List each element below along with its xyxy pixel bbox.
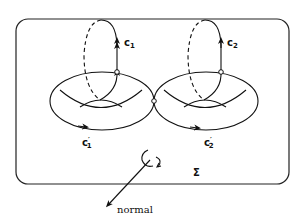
cycle-c1 bbox=[84, 20, 117, 100]
cycle-c2-prime-arrow bbox=[190, 127, 198, 128]
label-normal: normal bbox=[117, 204, 153, 215]
cycle-c2 bbox=[188, 20, 221, 100]
label-c1-prime: c′1 bbox=[82, 136, 92, 150]
rotation-indicator-icon bbox=[142, 150, 161, 167]
basepoint-left bbox=[115, 70, 120, 75]
label-sigma: Σ bbox=[193, 167, 200, 178]
genus-two-surface-diagram: c1 c2 c′1 c′2 Σ normal bbox=[0, 0, 303, 221]
normal-arrow bbox=[108, 160, 150, 205]
label-c2-prime: c′2 bbox=[204, 136, 214, 150]
basepoint-right bbox=[219, 70, 224, 75]
junction-point bbox=[152, 99, 157, 104]
left-torus bbox=[50, 72, 154, 130]
right-torus bbox=[154, 72, 258, 130]
label-c2: c2 bbox=[227, 37, 238, 50]
label-c1: c1 bbox=[124, 37, 135, 50]
